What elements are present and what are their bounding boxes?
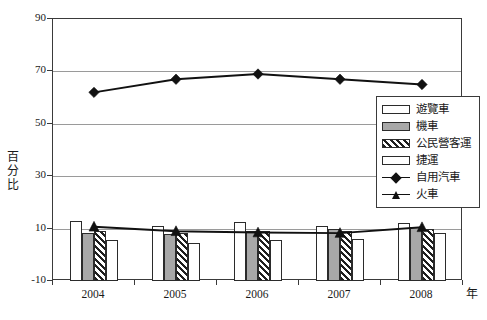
legend-item-label: 公民營客運 [416,137,471,150]
bar-dots [398,223,410,281]
legend-swatch-hatch-icon [382,139,410,148]
legend-swatch-gray-icon [382,122,410,131]
legend-diamond-marker-icon [390,172,401,183]
legend-swatch-dots-icon [382,105,410,114]
marker-diamond [417,79,427,89]
x-axis-tick-label: 2006 [229,288,285,301]
marker-diamond [171,74,181,84]
y-axis-tick-label: 70 [16,64,46,75]
bar-dots [70,221,82,281]
legend-item-label: 機車 [416,120,438,133]
x-axis-tick-mark [298,280,299,285]
legend-swatch-white-icon [382,156,410,165]
bar-dots [152,226,164,281]
x-axis-tick-mark [134,280,135,285]
chart-container: 百 分 比 -101030507090 20042005200620072008… [0,0,487,320]
x-axis-tick-label: 2008 [393,288,449,301]
legend-item: 火車 [382,186,475,203]
bar-gray [82,233,94,281]
bar-gray [410,227,422,281]
legend-item: 捷運 [382,152,475,169]
legend-item-label: 火車 [416,188,438,201]
legend-rows: 遊覽車機車公民營客運捷運自用汽車火車 [382,101,475,203]
marker-triangle [89,221,99,231]
legend-item-label: 捷運 [416,154,438,167]
bar-white [434,233,446,281]
bar-dots [234,222,246,281]
y-axis-tick-label: 30 [16,169,46,180]
x-axis-tick-label: 2005 [147,288,203,301]
x-axis-title: 年 [466,288,478,301]
marker-diamond [253,69,263,79]
y-axis-tick-label: -10 [16,274,46,285]
line-diamond [94,74,422,92]
bar-hatch [176,233,188,281]
bar-hatch [94,231,106,281]
bar-gray [246,231,258,281]
bar-hatch [258,231,270,281]
x-axis-tick-mark [380,280,381,285]
bar-white [352,239,364,281]
x-axis-tick-mark [462,280,463,285]
legend-swatch-line-diamond-icon [382,172,410,183]
bar-hatch [340,231,352,281]
bar-gray [164,234,176,281]
bar-white [270,240,282,281]
legend-triangle-marker-icon [392,191,400,199]
y-axis-tick-label: 10 [16,222,46,233]
legend-item: 自用汽車 [382,169,475,186]
x-axis-tick-mark [216,280,217,285]
legend-item: 遊覽車 [382,101,475,118]
y-axis-tick-label: 90 [16,12,46,23]
marker-diamond [89,87,99,97]
bar-dots [316,226,328,281]
x-axis-tick-mark [52,280,53,285]
marker-diamond [335,74,345,84]
legend-item: 機車 [382,118,475,135]
x-axis-tick-label: 2004 [65,288,121,301]
bar-white [106,240,118,281]
x-axis-tick-label: 2007 [311,288,367,301]
y-axis-tick-label: 50 [16,117,46,128]
legend-item-label: 遊覽車 [416,103,449,116]
legend-item: 公民營客運 [382,135,475,152]
gridline [53,71,461,72]
legend-item-label: 自用汽車 [416,171,460,184]
bar-hatch [422,229,434,281]
y-axis-title-char: 百 [6,150,20,164]
bar-white [188,243,200,281]
legend-swatch-line-triangle-icon [382,189,410,200]
chart-legend: 遊覽車機車公民營客運捷運自用汽車火車 [376,96,480,208]
bar-gray [328,229,340,281]
